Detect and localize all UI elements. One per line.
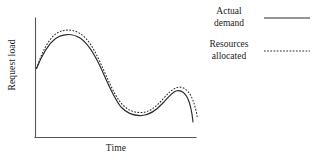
legend-item-actual-demand: Actual demand [198,6,313,29]
series-resources-allocated [37,30,198,118]
series-actual-demand [37,35,194,122]
legend-swatch-solid-line [263,12,311,24]
legend-label-actual-demand: Actual demand [198,6,260,29]
y-axis-label: Request load [7,34,17,96]
legend-swatch-dotted-line [263,45,311,57]
figure-container: Request load Time Actual demand Resource… [0,0,313,162]
legend-label-resources-allocated-line1: Resources [198,39,260,51]
legend-label-resources-allocated: Resources allocated [198,39,260,62]
x-axis-label: Time [35,143,197,153]
legend-item-resources-allocated: Resources allocated [198,39,313,62]
legend-label-actual-demand-line1: Actual [198,6,260,18]
legend-label-resources-allocated-line2: allocated [198,51,260,63]
legend: Actual demand Resources allocated [198,4,313,72]
legend-label-actual-demand-line2: demand [198,18,260,30]
